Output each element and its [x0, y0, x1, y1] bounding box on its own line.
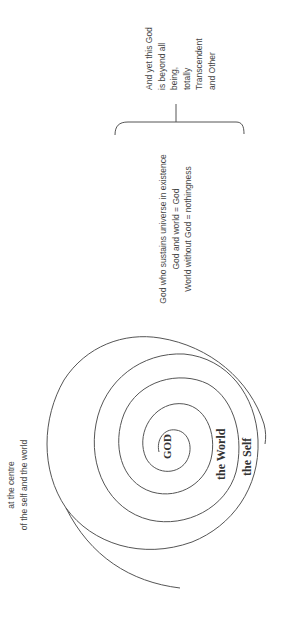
note-immanent-line: God who sustains universe in existence: [157, 138, 170, 320]
diagram-graphics: [0, 0, 283, 626]
note-transcendent-line: totally: [181, 27, 194, 90]
note-transcendent-line: Transcendent: [193, 27, 206, 90]
note-immanent: God who sustains universe in existence G…: [157, 138, 195, 320]
note-immanent-line: World without God = nothingness: [182, 138, 195, 320]
brace-bracket: [115, 122, 244, 135]
note-transcendent-line: is beyond all: [156, 27, 169, 90]
note-center-line: at the centre: [5, 435, 18, 535]
note-transcendent: And yet this God is beyond all being, to…: [143, 27, 218, 90]
note-center: at the centre of the self and the world: [5, 435, 30, 535]
note-center-line: of the self and the world: [18, 435, 31, 535]
label-the-world: the World: [214, 429, 229, 480]
note-transcendent-line: And yet this God: [143, 27, 156, 90]
spiral-tail: [66, 508, 180, 588]
note-immanent-line: God and world = God: [170, 138, 183, 320]
label-god: GOD: [161, 434, 173, 459]
note-transcendent-line: and Other: [206, 27, 219, 90]
note-transcendent-line: being,: [168, 27, 181, 90]
spiral-line: [47, 337, 266, 550]
label-the-self: the Self: [240, 438, 255, 476]
diagram-canvas: And yet this God is beyond all being, to…: [0, 0, 283, 626]
